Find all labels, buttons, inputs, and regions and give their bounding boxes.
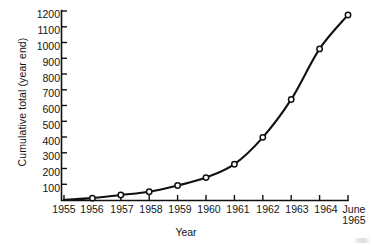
chart-figure: Cumulative total (year end) Year 100 200… (0, 0, 372, 245)
y-tick-label-600: 600 (18, 104, 60, 115)
y-axis-ticks (62, 11, 68, 184)
y-tick-label-400: 400 (18, 136, 60, 147)
y-tick-label-700: 700 (18, 88, 60, 99)
data-point-marker (90, 195, 95, 200)
x-tick-label-june-1965-line2: 1965 (336, 215, 372, 226)
data-point-marker (260, 135, 265, 140)
data-series-cumulative-total (64, 12, 351, 201)
y-tick-label-800: 800 (18, 73, 60, 84)
data-point-marker (345, 12, 350, 17)
data-point-marker (289, 97, 294, 102)
data-point-marker (118, 192, 123, 197)
data-point-marker (147, 189, 152, 194)
data-point-marker (317, 46, 322, 51)
y-tick-label-300: 300 (18, 151, 60, 162)
axis-lines (62, 11, 349, 201)
y-tick-label-900: 900 (18, 57, 60, 68)
y-tick-label-1200: 1200 (18, 9, 60, 20)
y-tick-label-100: 100 (18, 183, 60, 194)
scan-artifact (355, 238, 369, 243)
y-tick-label-1000: 1000 (18, 41, 60, 52)
x-tick-label-june-1965: June 1965 (336, 204, 372, 226)
y-tick-label-500: 500 (18, 120, 60, 131)
data-point-marker (232, 161, 237, 166)
data-point-marker (203, 175, 208, 180)
data-point-marker (175, 183, 180, 188)
y-tick-label-1100: 1100 (18, 25, 60, 36)
x-axis-title: Year (0, 226, 372, 238)
y-tick-label-200: 200 (18, 167, 60, 178)
